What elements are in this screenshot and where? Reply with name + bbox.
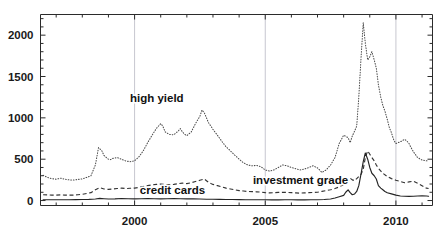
credit-spread-line-chart: 0500100015002000 200020052010 high yield… — [0, 0, 445, 248]
x-tick-label-2000: 2000 — [122, 215, 148, 227]
plot-background — [0, 0, 445, 248]
y-tick-label-500: 500 — [14, 153, 33, 165]
annotation-credit-cards: credit cards — [140, 184, 205, 196]
annotation-high-yield: high yield — [130, 92, 184, 104]
y-tick-label-1500: 1500 — [8, 71, 34, 83]
y-tick-label-1000: 1000 — [8, 112, 34, 124]
x-tick-label-2010: 2010 — [383, 215, 409, 227]
y-tick-label-2000: 2000 — [8, 29, 34, 41]
chart-container: 0500100015002000 200020052010 high yield… — [0, 0, 445, 248]
x-tick-label-2005: 2005 — [252, 215, 278, 227]
annotation-investment-grade: investment grade — [253, 174, 348, 186]
y-tick-label-0: 0 — [27, 195, 33, 207]
